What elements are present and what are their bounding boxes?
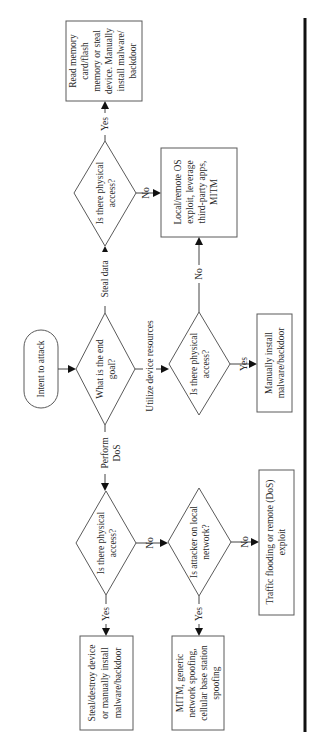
outcome-read-memory-line2: card/flash	[80, 42, 90, 80]
outcome-steal-destroy-line1: Steal/destroy device	[87, 645, 97, 722]
outcome-steal-destroy-line2: or manually install	[100, 647, 110, 719]
arrow-icon	[251, 538, 259, 546]
outcome-read-memory-line5: install malware/	[116, 30, 126, 91]
edge-label-yes: Yes	[101, 607, 111, 621]
arrow-icon	[161, 365, 169, 373]
arrow-icon	[195, 237, 203, 245]
decision-local-network-line2: network?	[201, 524, 211, 559]
arrow-icon	[249, 360, 257, 368]
edge-label-no: No	[141, 187, 151, 199]
arrow-icon	[101, 483, 109, 491]
edge-label-no: No	[194, 268, 204, 280]
decision-utilize-physical-line2: access?	[201, 350, 211, 378]
edge-label-perform: Perform	[100, 437, 110, 469]
outcome-read-memory-line3: memory or steal	[92, 30, 102, 92]
outcome-remote-exploit-line2: exploit, leverage	[185, 160, 195, 223]
arrow-icon	[68, 365, 76, 373]
outcome-traffic-flooding-line1: Traffic flooding or remote (DoS)	[265, 479, 276, 604]
outcome-read-memory-line4: device. Manually	[104, 28, 114, 94]
outcome-manual-install-line1: Manually install	[264, 332, 274, 394]
arrow-icon	[160, 539, 168, 547]
outcome-remote-exploit-line4: MITM	[209, 179, 219, 205]
outcome-mitm-line4: spoofing	[211, 666, 221, 700]
outcome-remote-exploit-line3: third-party apps,	[197, 161, 207, 224]
outcome-mitm-line2: network spoofing,	[187, 648, 197, 717]
edge-label-steal-data: Steal data	[100, 260, 110, 298]
decision-local-network-line1: Is attacker on local	[189, 506, 199, 578]
outcome-steal-destroy-line3: malware/backdoor	[113, 647, 123, 719]
edge-label-yes: Yes	[100, 117, 110, 131]
outcome-read-memory-line6: backdoor	[128, 42, 138, 78]
edge-label-no: No	[240, 536, 250, 548]
edge-label-yes: Yes	[239, 357, 249, 371]
decision-end-goal-line2: goal?	[107, 359, 117, 380]
edge-label-utilize: Utilize device resources	[145, 320, 155, 412]
decision-steal-physical	[74, 141, 136, 246]
decision-steal-physical-line1: Is there physical	[95, 162, 105, 225]
arrow-icon	[102, 628, 110, 636]
decision-utilize-physical	[169, 312, 230, 415]
decision-dos-physical-line1: Is there physical	[96, 512, 106, 575]
decision-local-network	[168, 488, 231, 596]
edge-label-yes: Yes	[194, 607, 204, 621]
outcome-remote-exploit-line1: Local/remote OS	[173, 159, 183, 224]
decision-steal-physical-line2: access?	[107, 179, 117, 207]
arrow-icon	[153, 189, 161, 197]
outcome-traffic-flooding-line2: exploit	[277, 528, 287, 555]
outcome-read-memory-line1: Read memory	[68, 34, 78, 88]
edge-label-no: No	[145, 537, 155, 549]
arrow-icon	[101, 101, 109, 109]
edge-label-dos: DoS	[112, 445, 122, 462]
decision-dos-physical	[76, 491, 136, 595]
decision-end-goal	[76, 313, 135, 425]
outcome-mitm-line1: MITM, generic	[175, 654, 185, 713]
decision-end-goal-line1: What is the end	[95, 339, 105, 399]
outcome-manual-install-line2: malware/backdoor	[276, 327, 286, 399]
outcome-mitm-line3: cellular base station	[199, 645, 209, 721]
start-node-label: Intent to attack	[36, 340, 46, 397]
decision-utilize-physical-line1: Is there physical	[189, 333, 199, 396]
arrow-icon	[195, 628, 203, 636]
outcome-manual-install	[257, 314, 292, 412]
decision-dos-physical-line2: access?	[108, 529, 118, 557]
flowchart: Intent to attack What is the end goal? S…	[0, 0, 315, 747]
